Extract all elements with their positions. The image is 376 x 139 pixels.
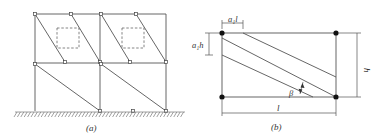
label-h: h	[362, 68, 372, 73]
window-opening-left	[57, 28, 79, 48]
diagram-canvas: (a) a₁l a₁h h l	[0, 0, 376, 139]
caption-a: (a)	[86, 123, 97, 133]
window-openings	[57, 28, 144, 48]
label-a1l: a₁l	[228, 14, 238, 24]
figure-b-panel	[222, 33, 336, 97]
label-beta: β	[288, 88, 294, 98]
label-l: l	[277, 103, 280, 113]
window-opening-right	[122, 28, 144, 48]
label-a1h: a₁h	[192, 40, 203, 50]
caption-b: (b)	[271, 122, 282, 132]
